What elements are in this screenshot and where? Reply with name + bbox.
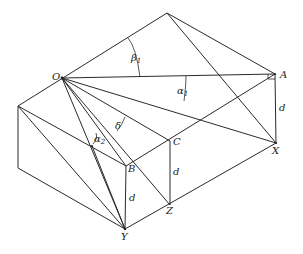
label-delta: δ — [115, 120, 121, 131]
vertex-P — [91, 145, 93, 147]
edge-L-B — [18, 106, 126, 166]
label-Y: Y — [121, 231, 129, 242]
line-O-Z — [62, 78, 170, 205]
edge-A-X — [275, 74, 276, 143]
edge-top-left — [18, 13, 167, 106]
label-alpha1: α1 — [177, 85, 188, 98]
label-B: B — [127, 163, 135, 174]
edge-Y-X — [125, 143, 276, 229]
line-T-X — [167, 13, 276, 143]
angle-markers — [93, 38, 186, 144]
edge-B-Y — [125, 166, 126, 229]
block-diagram: O A X C B Y Z d d d β1 α1 δ α2 — [0, 0, 303, 254]
label-X: X — [271, 145, 280, 156]
label-d-right: d — [279, 102, 285, 113]
label-d-left: d — [129, 192, 135, 203]
label-O: O — [52, 71, 60, 82]
label-d-middle: d — [173, 166, 179, 177]
vertex-A — [274, 73, 276, 75]
block-edges — [18, 13, 276, 229]
label-A: A — [279, 69, 287, 80]
edge-left-bottom — [18, 168, 125, 229]
label-beta1: β1 — [130, 52, 141, 65]
edge-top-right — [167, 13, 275, 74]
vertex-X — [275, 142, 277, 144]
construction-lines — [18, 13, 276, 229]
line-L-Y — [18, 106, 125, 229]
line-O-A — [62, 74, 275, 78]
vertex-O — [61, 77, 64, 80]
label-C: C — [173, 136, 181, 147]
line-O-C — [62, 78, 170, 141]
label-Z: Z — [165, 205, 174, 216]
vertex-Y — [124, 228, 126, 230]
